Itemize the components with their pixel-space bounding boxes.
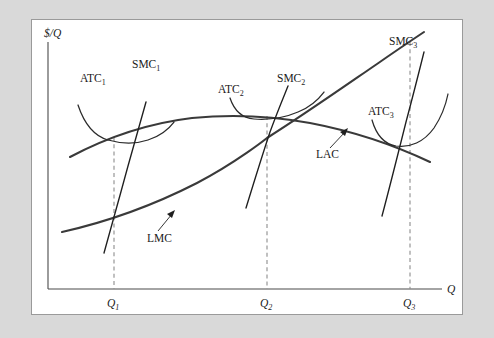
label-lmc: LMC: [147, 232, 172, 244]
lac-leader-line: [330, 132, 345, 148]
label-atc1: ATC1: [80, 72, 106, 87]
lmc-curve: [62, 32, 424, 232]
lmc-leader-line: [158, 214, 172, 231]
label-atc2: ATC2: [218, 83, 244, 98]
cost-curve-diagram: ATC1 SMC1 ATC2 SMC2 ATC3 SMC3 LAC LM: [32, 20, 464, 316]
x-tick-label-q2: Q2: [260, 297, 272, 312]
label-smc1: SMC1: [132, 58, 160, 73]
label-atc3: ATC3: [368, 105, 394, 120]
label-smc2: SMC2: [277, 72, 305, 87]
x-axis-label: Q: [447, 283, 456, 295]
lac-curve: [70, 116, 430, 162]
smc3-curve: [382, 52, 424, 216]
figure-panel: ATC1 SMC1 ATC2 SMC2 ATC3 SMC3 LAC LM: [31, 19, 463, 315]
x-tick-label-q3: Q3: [403, 297, 415, 312]
y-axis-label: $/Q: [44, 27, 62, 39]
x-tick-label-q1: Q1: [107, 297, 119, 312]
label-smc3: SMC3: [389, 35, 417, 50]
lmc-arrow-head: [167, 210, 175, 218]
smc1-curve: [104, 102, 146, 253]
label-lac: LAC: [316, 148, 339, 160]
